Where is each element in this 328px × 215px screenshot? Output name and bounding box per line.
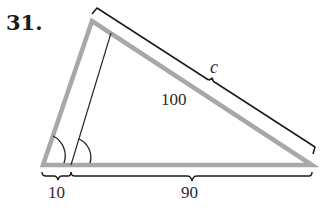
- angle-arc-left: [53, 136, 65, 163]
- brace-10: [42, 172, 71, 180]
- label-100: 100: [161, 90, 187, 109]
- label-10: 10: [48, 183, 65, 202]
- angle-arc-right: [79, 139, 91, 163]
- inner-segment: [71, 33, 111, 165]
- brace-90: [71, 172, 312, 181]
- hypotenuse-brace: [92, 8, 315, 154]
- label-90: 90: [181, 183, 198, 202]
- problem-number: 31.: [6, 10, 43, 35]
- label-c: c: [210, 57, 218, 77]
- triangle-diagram: 31. c 100 10 90: [0, 0, 328, 215]
